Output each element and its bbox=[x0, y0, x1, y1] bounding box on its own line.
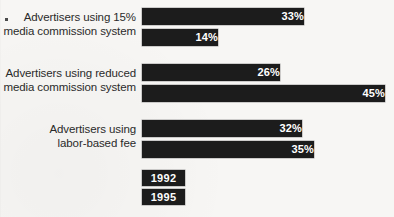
bar-value-1992-cat3: 32% bbox=[142, 120, 308, 137]
category-label-1: Advertisers using 15% media commission s… bbox=[0, 10, 136, 38]
bar-value-1995-cat2: 45% bbox=[142, 85, 391, 102]
legend-item-1992[interactable]: 1992 bbox=[142, 170, 185, 186]
category-label-3: Advertisers using labor-based fee bbox=[0, 122, 136, 150]
category-label-2-line-2: media commission system bbox=[0, 80, 136, 94]
bar-value-1992-cat2: 26% bbox=[142, 64, 286, 81]
bar-value-1995-cat3: 35% bbox=[142, 141, 320, 158]
bar-value-1995-cat1: 14% bbox=[142, 29, 224, 46]
legend-item-1995[interactable]: 1995 bbox=[142, 189, 185, 205]
legend-label-1992: 1992 bbox=[142, 170, 185, 186]
category-label-2: Advertisers using reduced media commissi… bbox=[0, 66, 136, 94]
chart-legend: 1992 1995 bbox=[142, 170, 185, 208]
category-label-1-line-2: media commission system bbox=[0, 24, 136, 38]
category-label-1-line-1: Advertisers using 15% bbox=[0, 10, 136, 24]
legend-label-1995: 1995 bbox=[142, 189, 185, 205]
category-label-3-line-1: Advertisers using bbox=[0, 122, 136, 136]
bar-chart: Advertisers using 15% media commission s… bbox=[0, 0, 394, 217]
category-label-3-line-2: labor-based fee bbox=[0, 136, 136, 150]
category-label-2-line-1: Advertisers using reduced bbox=[0, 66, 136, 80]
bar-value-1992-cat1: 33% bbox=[142, 8, 310, 25]
